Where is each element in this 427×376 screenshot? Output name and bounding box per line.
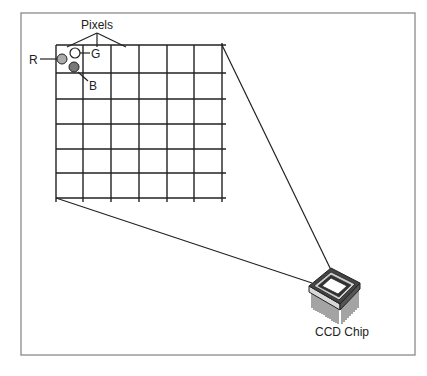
pixels-label: Pixels (81, 18, 113, 32)
ccd-diagram: Pixels R G B (0, 0, 427, 376)
blue-pixel-icon (69, 62, 79, 72)
projection-line-top (222, 45, 331, 270)
red-label: R (29, 53, 38, 67)
projection-line-bottom (56, 198, 312, 283)
red-pixel-icon (57, 54, 67, 64)
green-label: G (91, 47, 100, 61)
ccd-chip-icon (309, 268, 360, 324)
pixel-grid (56, 43, 226, 202)
blue-label: B (89, 79, 97, 93)
green-pixel-icon (70, 48, 80, 58)
ccd-chip-label: CCD Chip (315, 325, 369, 339)
